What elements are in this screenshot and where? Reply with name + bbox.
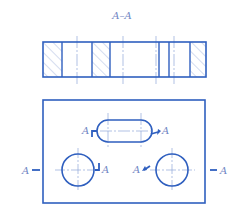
hatch-region-left: [43, 42, 62, 77]
label-right-outer: A: [219, 165, 227, 176]
section-view: A–A: [43, 10, 206, 84]
plan-view: A A A A A A: [21, 100, 227, 203]
cutting-mark-left-circle: [95, 163, 99, 170]
label-right-circle: A: [132, 164, 140, 175]
hatch-region-right: [190, 42, 206, 77]
section-title: A–A: [111, 10, 131, 21]
label-left-circle: A: [101, 164, 109, 175]
section-outline: [43, 42, 206, 77]
label-slot-right: A: [161, 125, 169, 136]
arrow-slot-right: [157, 129, 161, 135]
hatch-region-middle: [92, 42, 110, 77]
technical-drawing: A–A: [0, 0, 235, 213]
label-slot-left: A: [81, 125, 89, 136]
arrow-right-circle: [142, 166, 147, 171]
slot-center-lines: [100, 113, 151, 149]
section-dividers: [62, 42, 190, 77]
label-left-outer: A: [21, 165, 29, 176]
cutting-mark-slot-left: [92, 131, 97, 137]
plan-outline: [43, 100, 205, 203]
